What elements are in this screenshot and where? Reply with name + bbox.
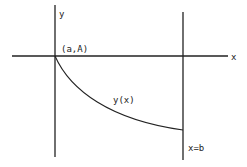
curve-label: y(x) (113, 95, 135, 105)
curve-y-of-x (55, 56, 183, 130)
start-point-label: (a,A) (61, 44, 88, 54)
end-line-label: x=b (188, 143, 204, 153)
y-axis-label: y (59, 9, 65, 19)
diagram-canvas: y x (a,A) y(x) x=b (0, 0, 247, 167)
x-axis-label: x (231, 52, 237, 62)
